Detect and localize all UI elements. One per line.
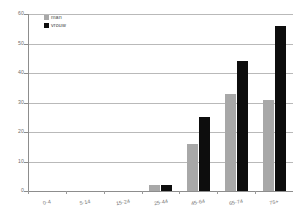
bar-group (104, 14, 142, 191)
y-axis-tick-label: 60 (0, 11, 24, 16)
x-axis-tick-label: 65-74 (229, 199, 244, 207)
x-axis-label-cell: 15-24 (104, 195, 142, 217)
bar-group (217, 14, 255, 191)
x-axis-tick-label: 25-44 (153, 199, 168, 207)
bar-man (263, 100, 274, 191)
legend-label-man: man (51, 15, 62, 20)
y-axis-tick-label: 30 (0, 100, 24, 105)
y-axis-tick-label: 10 (0, 159, 24, 164)
legend-entry-man: man (44, 15, 66, 20)
x-axis-label-cell: 65-74 (217, 195, 255, 217)
y-axis-tick-label: 50 (0, 41, 24, 46)
chart-legend: man vrouw (44, 15, 66, 28)
bar-chart: 0102030405060 0-45-1415-2425-4445-6465-7… (0, 0, 300, 220)
bar-man (225, 94, 236, 191)
x-axis-label-cell: 75+ (255, 195, 293, 217)
x-axis-tick-label: 15-24 (115, 199, 130, 207)
bar-group (179, 14, 217, 191)
y-axis-tick-label: 40 (0, 70, 24, 75)
legend-swatch-man-icon (44, 15, 49, 20)
x-axis-label-cell: 25-44 (142, 195, 180, 217)
x-axis-labels: 0-45-1415-2425-4445-6465-7475+ (28, 195, 293, 217)
bar-man (187, 144, 198, 191)
bar-vrouw (199, 117, 210, 191)
legend-label-vrouw: vrouw (51, 23, 66, 28)
bar-group (255, 14, 293, 191)
x-axis-label-cell: 5-14 (66, 195, 104, 217)
bar-group (28, 14, 66, 191)
x-axis-tick-label: 75+ (269, 199, 279, 206)
x-axis-label-cell: 45-64 (179, 195, 217, 217)
y-axis-tick-label: 20 (0, 129, 24, 134)
bar-group (66, 14, 104, 191)
bar-groups (28, 14, 293, 191)
legend-swatch-vrouw-icon (44, 23, 49, 28)
bar-vrouw (275, 26, 286, 191)
bar-group (142, 14, 180, 191)
x-axis-tick-label: 45-64 (191, 199, 206, 207)
x-axis-tick-label: 5-14 (79, 199, 91, 206)
bar-vrouw (237, 61, 248, 191)
legend-entry-vrouw: vrouw (44, 23, 66, 28)
y-axis-tick-label: 0 (0, 188, 24, 193)
x-axis-label-cell: 0-4 (28, 195, 66, 217)
x-axis-tick-label: 0-4 (43, 199, 52, 206)
